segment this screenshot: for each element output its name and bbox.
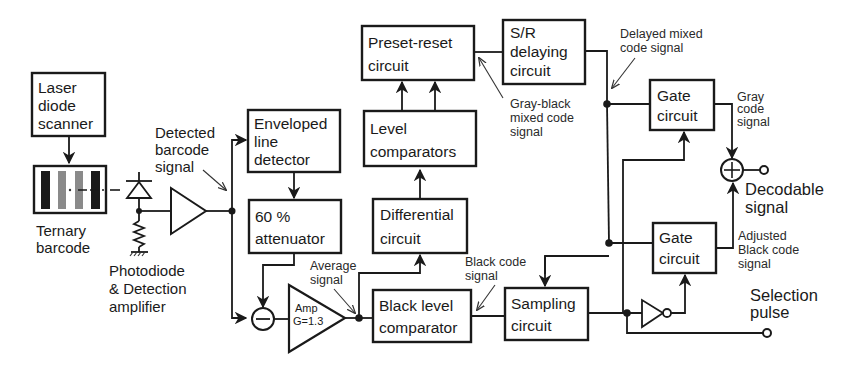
decodable-output-terminal: [760, 166, 768, 174]
gray-bar-icon: [58, 171, 66, 209]
block-label: comparators: [370, 143, 456, 160]
gray-code-label: code: [737, 102, 764, 116]
adjusted-black-label: Adjusted: [738, 229, 787, 243]
amp-gain-label: G=1.3: [293, 315, 323, 327]
block-label: line: [254, 133, 278, 150]
attenuator-block: 60 % attenuator: [249, 200, 341, 253]
black-code-signal-label: signal: [465, 269, 498, 283]
subtractor-icon: [252, 308, 274, 330]
block-label: circuit: [511, 317, 552, 334]
block-label: delaying: [510, 43, 568, 60]
adder-icon: [721, 159, 743, 181]
selection-pulse-terminal: [763, 329, 771, 337]
gray-black-mixed-label: signal: [510, 125, 543, 139]
sampling-circuit-block: Sampling circuit: [505, 288, 588, 340]
gate-circuit-top-block: Gate circuit: [650, 80, 714, 130]
barcode-decoder-block-diagram: Laser diode scanner Ternary barcode Ph: [0, 0, 864, 366]
black-code-signal-label: Black code: [465, 255, 526, 269]
block-label: comparator: [379, 319, 457, 336]
amp-gain-block: Amp G=1.3: [289, 285, 345, 352]
block-label: circuit: [510, 62, 551, 79]
block-label: scanner: [38, 115, 93, 132]
black-bar-icon: [41, 171, 50, 209]
detection-amplifier-icon: [171, 188, 206, 234]
block-label: Differential: [380, 206, 454, 223]
preset-reset-circuit-block: Preset-reset circuit: [362, 26, 474, 80]
block-label: Level: [370, 120, 407, 137]
ternary-barcode-label: barcode: [36, 239, 90, 256]
adjusted-black-label: signal: [738, 257, 771, 271]
laser-diode-scanner-block: Laser diode scanner: [32, 73, 105, 136]
block-label: circuit: [657, 107, 698, 124]
detected-signal-label: barcode: [155, 141, 209, 158]
block-label: circuit: [368, 57, 409, 74]
level-comparators-block: Level comparators: [364, 111, 476, 166]
gate-circuit-bottom-block: Gate circuit: [653, 223, 716, 273]
amp-label: Amp: [295, 302, 318, 314]
block-label: diode: [38, 97, 76, 114]
photodiode-icon: [126, 172, 152, 211]
selection-pulse-label: Selection: [750, 286, 818, 304]
detected-signal-label: signal: [155, 158, 194, 175]
block-label: Enveloped: [254, 115, 327, 132]
gray-black-mixed-label: mixed code: [510, 111, 574, 125]
selection-pulse-label: pulse: [750, 303, 789, 321]
block-label: Sampling: [511, 295, 576, 312]
block-label: S/R: [510, 24, 536, 41]
black-level-comparator-block: Black level comparator: [373, 290, 471, 342]
inverter-icon: [642, 300, 671, 327]
block-label: Gate: [659, 229, 693, 246]
enveloped-line-detector-block: Enveloped line detector: [248, 110, 340, 172]
adjusted-black-label: Black code: [738, 243, 799, 257]
block-label: circuit: [659, 250, 700, 267]
block-label: circuit: [380, 230, 421, 247]
ternary-barcode-label: Ternary: [36, 222, 87, 239]
block-label: Black level: [379, 297, 453, 314]
block-label: Gate: [657, 87, 691, 104]
gray-code-label: signal: [737, 115, 770, 129]
photodiode-label: & Detection: [109, 280, 187, 297]
block-label: detector: [254, 151, 310, 168]
block-label: Preset-reset: [368, 34, 453, 51]
delayed-mixed-label: Delayed mixed: [620, 27, 703, 41]
differential-circuit-block: Differential circuit: [373, 199, 467, 253]
resistor-ground-icon: [130, 211, 148, 256]
detected-signal-label: Detected: [155, 124, 215, 141]
gray-black-mixed-label: Gray-black: [510, 97, 571, 111]
block-label: 60 %: [255, 208, 291, 225]
decodable-label: signal: [745, 198, 788, 216]
average-signal-label: signal: [310, 273, 343, 287]
decodable-label: Decodable: [745, 180, 824, 198]
photodiode-label: amplifier: [109, 298, 166, 315]
sr-delaying-circuit-block: S/R delaying circuit: [503, 20, 585, 84]
delayed-mixed-label: code signal: [620, 41, 683, 55]
block-label: attenuator: [255, 230, 325, 247]
block-label: Laser: [38, 79, 77, 96]
photodiode-label: Photodiode: [109, 262, 185, 279]
ternary-barcode-block: [34, 166, 120, 213]
average-signal-label: Average: [310, 259, 356, 273]
